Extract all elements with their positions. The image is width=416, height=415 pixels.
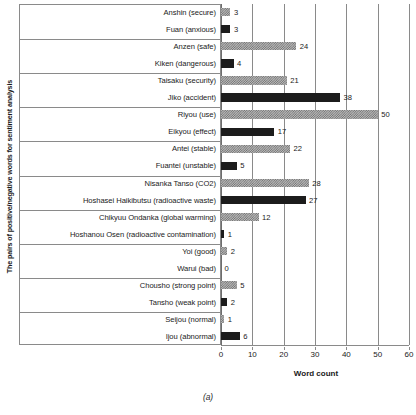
bar-wrapper: 1 [221, 311, 409, 328]
bar-value-label: 27 [309, 192, 317, 209]
bar-negative[interactable] [221, 196, 306, 204]
chart-row: Anshin (secure)3 [19, 4, 409, 21]
bar-value-label: 0 [225, 260, 229, 277]
category-label: Hoshasei Haikibutsu (radioactive waste) [19, 192, 216, 209]
category-label: Seijou (normal) [19, 311, 216, 328]
bar-negative[interactable] [221, 230, 224, 238]
bar-value-label: 5 [240, 157, 244, 174]
figure-caption: (a) [0, 392, 416, 402]
bar-wrapper: 17 [221, 123, 409, 140]
bar-negative[interactable] [221, 59, 234, 67]
category-label: Ijou (abnormal) [19, 328, 216, 345]
bar-value-label: 17 [278, 123, 286, 140]
gridline-60 [409, 4, 410, 345]
bar-value-label: 3 [234, 21, 238, 38]
bar-value-label: 5 [240, 277, 244, 294]
bar-positive[interactable] [221, 315, 224, 323]
chart-row: Yoi (good)2 [19, 243, 409, 260]
bar-positive[interactable] [221, 42, 296, 50]
figure-container: The pairs of positive/negative words for… [0, 0, 416, 415]
y-axis-title: The pairs of positive/negative words for… [5, 17, 14, 337]
bar-negative[interactable] [221, 93, 340, 101]
bar-positive[interactable] [221, 281, 237, 289]
bar-wrapper: 5 [221, 277, 409, 294]
category-label: Chikyuu Ondanka (global warming) [19, 209, 216, 226]
x-axis-ticks: 0102030405060 [221, 347, 411, 359]
bar-value-label: 50 [381, 106, 389, 123]
bar-positive[interactable] [221, 213, 259, 221]
bar-value-label: 28 [312, 175, 320, 192]
category-label: Hoshanou Osen (radioactive contamination… [19, 226, 216, 243]
bar-wrapper: 1 [221, 226, 409, 243]
x-tick-label: 10 [240, 350, 264, 359]
category-label: Anzen (safe) [19, 38, 216, 55]
chart-row: Chousho (strong point)5 [19, 277, 409, 294]
chart-row: Kiken (dangerous)4 [19, 55, 409, 72]
bar-value-label: 2 [231, 243, 235, 260]
bar-positive[interactable] [221, 76, 287, 84]
x-tick-label: 60 [397, 350, 416, 359]
chart-row: Nisanka Tanso (CO2)28 [19, 175, 409, 192]
bar-wrapper: 2 [221, 243, 409, 260]
bar-value-label: 3 [234, 4, 238, 21]
category-label: Kiken (dangerous) [19, 55, 216, 72]
bar-wrapper: 28 [221, 175, 409, 192]
chart-row: Hoshanou Osen (radioactive contamination… [19, 226, 409, 243]
bar-negative[interactable] [221, 128, 274, 136]
x-tick-label: 20 [272, 350, 296, 359]
x-axis-title: Word count [221, 369, 411, 378]
plot-frame: Anshin (secure)3Fuan (anxious)3Anzen (sa… [19, 4, 409, 345]
bar-wrapper: 2 [221, 294, 409, 311]
bar-value-label: 2 [231, 294, 235, 311]
bar-value-label: 6 [243, 328, 247, 345]
category-label: Jiko (accident) [19, 89, 216, 106]
category-label: Chousho (strong point) [19, 277, 216, 294]
category-label: Antei (stable) [19, 140, 216, 157]
x-tick-label: 50 [366, 350, 390, 359]
bar-value-label: 1 [228, 311, 232, 328]
chart-row: Taisaku (security)21 [19, 72, 409, 89]
bar-wrapper: 27 [221, 192, 409, 209]
chart-row: Fuan (anxious)3 [19, 21, 409, 38]
bar-negative[interactable] [221, 162, 237, 170]
category-label: Eikyou (effect) [19, 123, 216, 140]
chart-row: Riyou (use)50 [19, 106, 409, 123]
category-label: Warui (bad) [19, 260, 216, 277]
bar-negative[interactable] [221, 25, 230, 33]
bar-positive[interactable] [221, 247, 227, 255]
bar-wrapper: 21 [221, 72, 409, 89]
bar-wrapper: 4 [221, 55, 409, 72]
bar-value-label: 4 [237, 55, 241, 72]
bar-wrapper: 12 [221, 209, 409, 226]
bar-positive[interactable] [221, 8, 230, 16]
chart-row: Ijou (abnormal)6 [19, 328, 409, 345]
category-label: Riyou (use) [19, 106, 216, 123]
bar-negative[interactable] [221, 332, 240, 340]
chart-row: Jiko (accident)38 [19, 89, 409, 106]
category-label: Fuan (anxious) [19, 21, 216, 38]
bar-value-label: 22 [293, 140, 301, 157]
chart-row: Anzen (safe)24 [19, 38, 409, 55]
chart-row: Seijou (normal)1 [19, 311, 409, 328]
bar-wrapper: 0 [221, 260, 409, 277]
bar-positive[interactable] [221, 179, 309, 187]
bar-wrapper: 5 [221, 157, 409, 174]
bar-positive[interactable] [221, 110, 378, 118]
category-label: Nisanka Tanso (CO2) [19, 175, 216, 192]
bar-wrapper: 3 [221, 21, 409, 38]
x-tick-label: 30 [303, 350, 327, 359]
chart-row: Hoshasei Haikibutsu (radioactive waste)2… [19, 192, 409, 209]
bar-value-label: 1 [228, 226, 232, 243]
chart-row: Fuantei (unstable)5 [19, 157, 409, 174]
x-tick-label: 40 [334, 350, 358, 359]
bar-wrapper: 22 [221, 140, 409, 157]
bar-wrapper: 50 [221, 106, 409, 123]
bar-value-label: 21 [290, 72, 298, 89]
chart-row: Tansho (weak point)2 [19, 294, 409, 311]
bar-positive[interactable] [221, 145, 290, 153]
bar-negative[interactable] [221, 298, 227, 306]
chart-row: Chikyuu Ondanka (global warming)12 [19, 209, 409, 226]
chart-row: Eikyou (effect)17 [19, 123, 409, 140]
category-label: Taisaku (security) [19, 72, 216, 89]
category-label: Anshin (secure) [19, 4, 216, 21]
